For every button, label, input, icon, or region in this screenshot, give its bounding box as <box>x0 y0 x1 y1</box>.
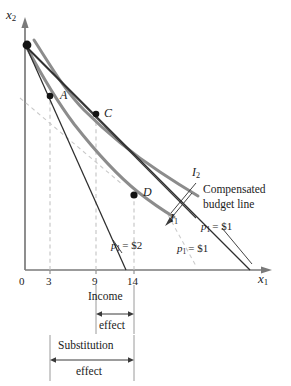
curve-label-I1-subscript: 1 <box>174 217 178 226</box>
price-label-compensated-value: = $1 <box>188 242 208 254</box>
budget-line-final-p1-1 <box>26 46 250 270</box>
x-axis-label-subscript: 1 <box>264 277 268 287</box>
price-label-compensated: p1= $1 <box>177 243 208 255</box>
point-A-label: A <box>60 89 67 101</box>
point-endowment-marker <box>23 41 32 50</box>
point-D-marker <box>130 191 137 198</box>
y-axis-label-subscript: 2 <box>12 13 16 23</box>
origin-label: 0 <box>19 276 25 287</box>
axes-group <box>21 17 272 274</box>
substitution-effect-label-line2: effect <box>76 366 102 378</box>
x-tick-label-9: 9 <box>92 276 98 287</box>
y-axis-label: x2 <box>6 8 16 23</box>
x-tick-label-14: 14 <box>127 276 138 287</box>
point-A-marker <box>47 93 54 100</box>
price-label-final-subscript: 1 <box>207 225 211 234</box>
curve-label-I1: I1 <box>170 212 178 226</box>
budget-line-original-p1-2 <box>26 46 126 270</box>
point-D-label: D <box>143 186 152 198</box>
price-label-compensated-subscript: 1 <box>183 247 187 256</box>
figure-canvas: x2 x1 0 3 9 14 A C D I2 I1 p1= $2 p1= $1… <box>0 0 291 386</box>
y-axis-arrowhead <box>21 17 28 28</box>
curve-label-I2: I2 <box>192 166 200 180</box>
compensated-budget-line-annotation-line1: Compensated <box>203 184 266 196</box>
income-effect-label-line2: effect <box>99 320 125 332</box>
point-C-marker <box>93 111 100 118</box>
price-label-final: p1= $1 <box>201 221 232 233</box>
substitution-effect-label-line1: Substitution <box>58 340 114 352</box>
point-C-label: C <box>104 107 112 119</box>
x-tick-label-3: 3 <box>46 276 52 287</box>
income-effect-label-line1: Income <box>88 291 122 303</box>
curve-label-I2-subscript: 2 <box>196 171 200 180</box>
x-axis-label: x1 <box>258 272 268 287</box>
substitution-bracket-left-arrowhead <box>50 357 56 362</box>
price-label-original-subscript: 1 <box>117 244 121 253</box>
substitution-bracket-right-arrowhead <box>128 357 134 362</box>
income-bracket-left-arrowhead <box>96 311 102 316</box>
budget-line-compensated <box>27 48 196 218</box>
compensated-budget-line-annotation-line2: budget line <box>203 199 254 211</box>
price-label-original: p1= $2 <box>111 240 142 252</box>
price-label-final-value: = $1 <box>212 220 232 232</box>
price-label-original-value: = $2 <box>122 239 142 251</box>
income-bracket-right-arrowhead <box>128 311 134 316</box>
